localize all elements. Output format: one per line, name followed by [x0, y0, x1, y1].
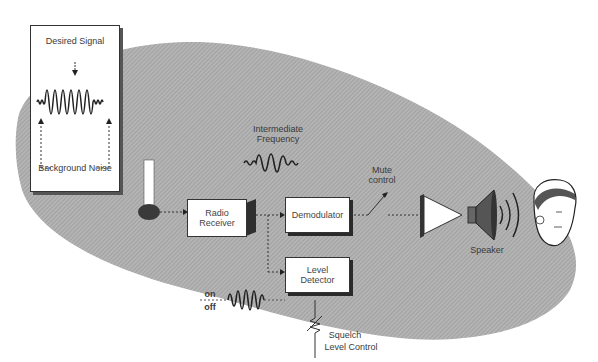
- level-detector-label: Level Detector: [298, 265, 338, 285]
- squelch-label: Squelch: [325, 330, 365, 340]
- demodulator-block: Demodulator: [285, 197, 350, 233]
- background-noise-label: Background Noise: [31, 163, 119, 173]
- level-control-label: Level Control: [318, 342, 384, 352]
- level-detector-block: Level Detector: [285, 257, 350, 293]
- listener-head-icon: [534, 180, 576, 246]
- radio-receiver-label: Radio Receiver: [197, 208, 237, 228]
- off-label: off: [202, 302, 218, 312]
- signal-noise-inset: Desired Signal Background Noise: [30, 25, 120, 192]
- intermediate-frequency-label: Intermediate Frequency: [238, 124, 318, 144]
- speaker-label: Speaker: [462, 245, 512, 255]
- radio-receiver-block: Radio Receiver: [187, 199, 247, 237]
- mute-control-label: Mute control: [362, 165, 402, 185]
- on-label: on: [202, 289, 218, 299]
- demodulator-label: Demodulator: [292, 210, 344, 220]
